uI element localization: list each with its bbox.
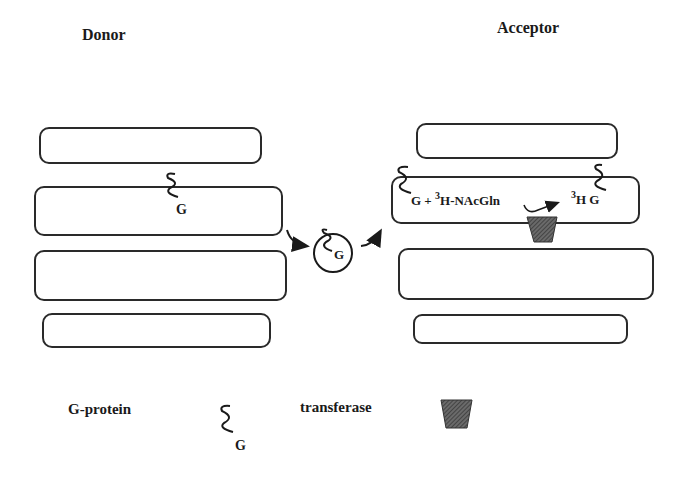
vesicle: G [314, 229, 352, 272]
reaction-text: G + 3H-NAcGln [411, 190, 501, 208]
legend-g-label: G [235, 438, 246, 453]
donor-stack [35, 128, 286, 347]
legend-gprotein-label: G-protein [68, 401, 132, 417]
legend: G-protein G transferase [68, 399, 472, 453]
reaction-arrow-icon [524, 203, 557, 212]
donor-g-label: G [176, 202, 187, 217]
acceptor-membrane-3 [399, 249, 653, 299]
acceptor-g-protein-icon [398, 167, 411, 193]
donor-membrane-4 [43, 314, 270, 347]
legend-transferase-icon [441, 400, 472, 428]
vesicle-g-protein-icon [323, 229, 332, 251]
donor-membrane-2 [35, 187, 282, 235]
legend-transferase-label: transferase [300, 399, 372, 415]
arrow-to-vesicle-icon [287, 230, 306, 246]
vesicle-g-label: G [334, 247, 344, 262]
arrow-to-acceptor-icon [361, 232, 380, 246]
product-text: 3H G [571, 189, 599, 207]
donor-membrane-1 [40, 128, 261, 163]
donor-title: Donor [82, 26, 126, 43]
donor-membrane-3 [35, 251, 286, 300]
acceptor-membrane-1 [417, 124, 617, 158]
acceptor-membrane-4 [414, 315, 627, 343]
donor-g-protein-icon: G [167, 174, 187, 218]
transferase-icon [527, 217, 557, 242]
diagram-canvas: Donor Acceptor G G G + 3H-NAcGln 3H G [0, 0, 685, 478]
legend-g-protein-icon [221, 406, 233, 432]
acceptor-title: Acceptor [497, 19, 559, 37]
acceptor-stack [392, 124, 653, 343]
